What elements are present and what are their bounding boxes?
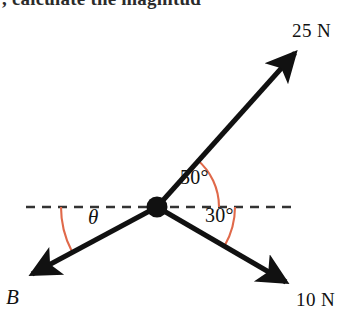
force-label-25n: 25 N: [292, 20, 331, 42]
origin-point: [147, 197, 168, 218]
angle-label-30: 30°: [205, 204, 234, 227]
angle-arc-theta: [61, 207, 72, 251]
vector-diagram-canvas: [0, 0, 347, 324]
force-vector-25n: [157, 53, 295, 207]
angle-label-theta: θ: [88, 205, 98, 230]
force-vector-figure: , calculate the magnitud: [0, 0, 347, 324]
force-label-10n: 10 N: [296, 289, 335, 311]
force-label-b: B: [6, 285, 19, 310]
angle-label-50: 50°: [180, 166, 209, 189]
